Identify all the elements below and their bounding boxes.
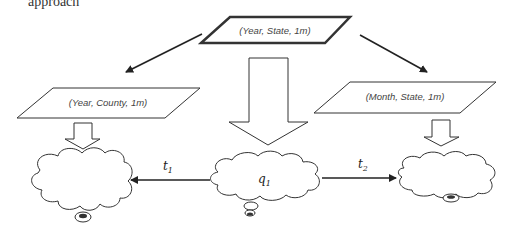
diagram-canvas: approach (Year, State, 1m) (Year, County…: [0, 0, 518, 241]
center-cloud-tail: [244, 202, 258, 210]
top-cut-text: approach: [28, 0, 79, 9]
right-down-arrow-icon: [424, 120, 459, 146]
right-cloud: [398, 152, 495, 203]
big-down-arrow-icon: [229, 58, 308, 145]
t2-label: t2: [358, 157, 368, 173]
transition-t1: t1: [131, 159, 210, 180]
right-cloud-shape: [398, 152, 495, 198]
left-cloud: [32, 148, 132, 222]
arrow-to-right-node: [360, 35, 427, 72]
t1-label: t1: [163, 159, 173, 175]
child-node-right: (Month, State, 1m): [314, 82, 496, 113]
child-node-left: (Year, County, 1m): [17, 88, 200, 118]
center-cloud: q1: [211, 151, 320, 216]
right-node-label: (Month, State, 1m): [366, 91, 445, 102]
arrow-to-left-node: [126, 34, 202, 72]
left-cloud-tail-dot: [79, 214, 87, 218]
root-node: (Year, State, 1m): [201, 17, 350, 43]
transition-t2: t2: [322, 157, 396, 178]
left-down-arrow-icon: [65, 123, 100, 149]
center-cloud-tail-dot: [247, 212, 253, 215]
root-node-label: (Year, State, 1m): [239, 25, 310, 36]
right-cloud-tail-dot: [447, 195, 455, 199]
left-node-label: (Year, County, 1m): [69, 97, 148, 108]
left-cloud-shape: [32, 148, 132, 211]
